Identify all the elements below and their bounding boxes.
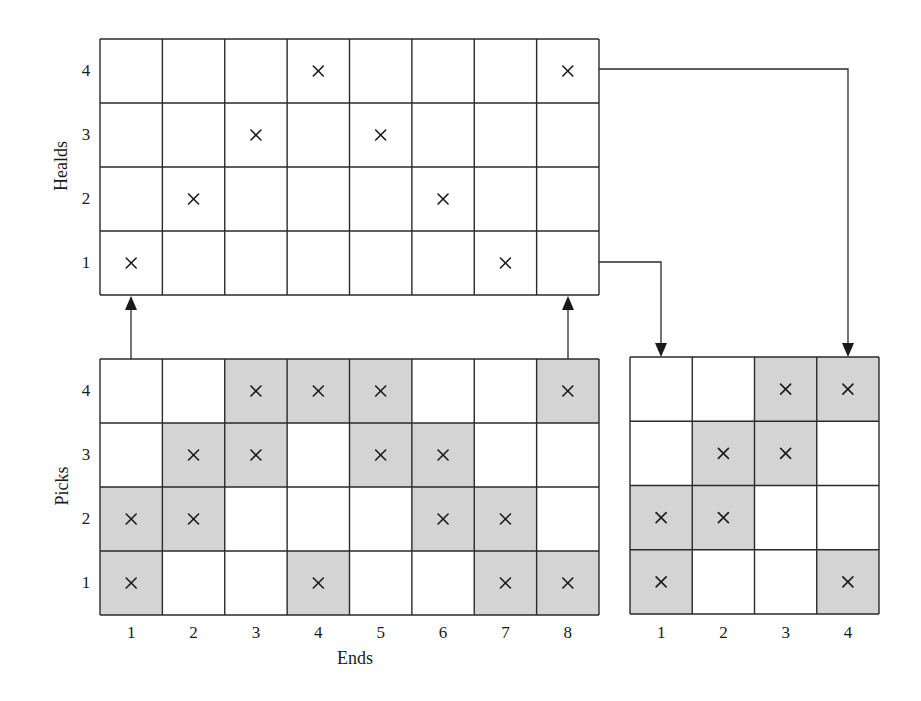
end-col-label: 8	[558, 624, 578, 641]
healds-axis-title: Healds	[52, 141, 70, 191]
shaft-col-label: 3	[776, 624, 796, 641]
end-col-label: 3	[246, 624, 266, 641]
end-col-label: 5	[371, 624, 391, 641]
draft-mark-icon	[438, 194, 448, 204]
pick-row-label: 4	[76, 382, 96, 399]
arrow-up-icon	[125, 296, 137, 310]
shaft-col-label: 4	[838, 624, 858, 641]
heald-row-label: 2	[76, 190, 96, 207]
shaft-col-label: 2	[713, 624, 733, 641]
end-col-label: 4	[308, 624, 328, 641]
end-col-label: 2	[184, 624, 204, 641]
draft-mark-icon	[313, 66, 323, 76]
end-col-label: 7	[495, 624, 515, 641]
picks-axis-title: Picks	[53, 464, 71, 508]
draft-mark-icon	[126, 258, 136, 268]
draft-mark-icon	[563, 66, 573, 76]
weave-diagram	[0, 0, 921, 701]
connector-arrows	[125, 69, 854, 359]
draft-mark-icon	[189, 194, 199, 204]
shaft-col-label: 1	[651, 624, 671, 641]
draft-mark-icon	[251, 130, 261, 140]
ends-axis-title: Ends	[330, 649, 380, 667]
heald-draft-grid	[100, 39, 599, 295]
pick-row-label: 1	[76, 574, 96, 591]
arrow-up-icon	[562, 296, 574, 310]
arrow-down-icon	[655, 343, 667, 357]
end-col-label: 6	[433, 624, 453, 641]
draft-mark-icon	[376, 130, 386, 140]
heald-row-label: 1	[76, 254, 96, 271]
pick-row-label: 2	[76, 510, 96, 527]
heald-row-label: 3	[76, 126, 96, 143]
pick-row-label: 3	[76, 446, 96, 463]
end-col-label: 1	[121, 624, 141, 641]
draft-mark-icon	[500, 258, 510, 268]
heald-row-label: 4	[76, 62, 96, 79]
arrow-down-icon	[842, 343, 854, 357]
